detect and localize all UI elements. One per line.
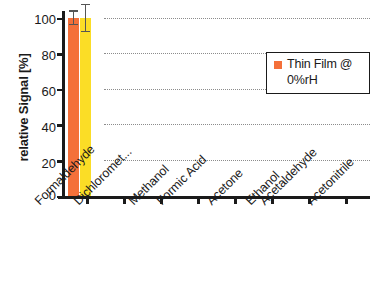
legend-label-line2: 0%rH (287, 73, 317, 87)
y-tick-mark (57, 53, 65, 56)
y-tick-mark (57, 89, 65, 92)
gridline-40 (104, 124, 370, 125)
legend-item-label: Thin Film @ 0%rH (287, 57, 352, 88)
errorbar-cap-bottom (81, 31, 90, 32)
errorbar-series-a (69, 10, 78, 25)
y-tick-label: 40 (22, 121, 56, 134)
legend-item: Thin Film @ 0%rH (274, 57, 365, 88)
y-tick-mark (57, 18, 65, 21)
y-tick-label: 60 (22, 85, 56, 98)
errorbar-stem (85, 4, 86, 33)
bar-chart: relative Signal [%] 100 80 60 40 20 0 (0, 0, 374, 301)
errorbar-series-b (81, 4, 90, 33)
y-tick-label: 20 (22, 157, 56, 170)
y-tick-mark (57, 160, 65, 163)
gridline-100 (104, 18, 370, 19)
legend: Thin Film @ 0%rH (266, 52, 370, 94)
bar-formaldehyde-series-b (80, 18, 91, 196)
errorbar-cap-top (81, 4, 90, 5)
errorbar-cap-top (69, 10, 78, 11)
legend-swatch-icon (274, 61, 282, 69)
legend-label-line1: Thin Film @ (287, 57, 352, 71)
y-tick-mark (57, 124, 65, 127)
gridline-20 (104, 160, 370, 161)
errorbar-cap-bottom (69, 24, 78, 25)
x-axis-tick-labels: Formaldehyde Dichloromet... Methanol For… (0, 198, 374, 301)
y-tick-label: 80 (22, 49, 56, 62)
y-tick-label: 100 (22, 13, 56, 26)
